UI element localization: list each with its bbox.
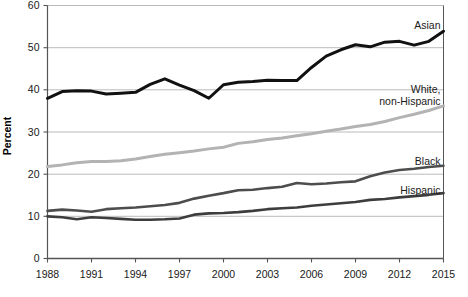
series-line-white-non-hispanic [48,106,444,167]
x-tick-label: 1991 [80,268,104,280]
x-tick-label: 2012 [388,268,412,280]
y-tick-label: 20 [28,168,40,180]
series-label-white-non-hispanic: White, [411,83,441,95]
line-chart: 0102030405060 19881991199419972000200320… [0,0,468,297]
series-label-asian: Asian [414,19,440,31]
gridlines [48,6,444,217]
chart-canvas: 0102030405060 19881991199419972000200320… [0,0,468,297]
y-tick-label: 0 [34,252,40,264]
y-axis-title: Percent [1,116,13,155]
x-tick-label: 2015 [432,268,456,280]
x-axis-tick-labels: 1988199119941997200020032006200920122015 [36,268,456,280]
data-series [48,31,444,219]
x-tick-label: 1994 [124,268,148,280]
y-tick-label: 50 [28,41,40,53]
x-tick-label: 1988 [36,268,60,280]
y-tick-label: 30 [28,126,40,138]
y-axis-title-text: Percent [1,116,13,155]
x-tick-label: 2003 [256,268,280,280]
series-line-hispanic [48,193,444,220]
series-label-black: Black [415,155,441,167]
x-tick-label: 2000 [212,268,236,280]
series-label-hispanic: Hispanic [400,184,440,196]
x-tick-label: 2006 [300,268,324,280]
y-tick-label: 60 [28,0,40,11]
x-tick-label: 2009 [344,268,368,280]
x-tick-label: 1997 [168,268,192,280]
series-line-asian [48,31,444,98]
y-tick-label: 40 [28,83,40,95]
series-label-white-non-hispanic: non-Hispanic [379,95,440,107]
series-line-black [48,166,444,212]
y-axis-tick-labels: 0102030405060 [28,0,40,264]
y-tick-label: 10 [28,210,40,222]
